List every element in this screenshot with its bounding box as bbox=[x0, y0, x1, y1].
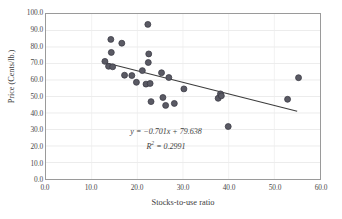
r-squared-value: = 0.2991 bbox=[156, 141, 185, 150]
r-squared-exponent: 2 bbox=[151, 140, 154, 146]
y-axis-tick-label: 10.0 bbox=[1, 160, 43, 167]
y-axis-title: Price (Cents/lb.) bbox=[7, 22, 16, 132]
x-axis-tick-label: 30.0 bbox=[163, 184, 203, 191]
y-axis-tick-label: 0.0 bbox=[1, 176, 43, 183]
x-axis-tick-label: 10.0 bbox=[71, 184, 111, 191]
x-axis-tick-label: 20.0 bbox=[117, 184, 157, 191]
r-squared-text: R2 = 0.2991 bbox=[110, 138, 222, 152]
x-axis-tick-label: 0.0 bbox=[25, 184, 65, 191]
plot-area bbox=[45, 13, 321, 180]
y-axis-tick-label: 20.0 bbox=[1, 143, 43, 150]
x-axis-tick-labels: 0.010.020.030.040.050.060.0 bbox=[45, 184, 321, 196]
x-axis-tick-label: 40.0 bbox=[209, 184, 249, 191]
x-axis-tick-label: 60.0 bbox=[301, 184, 341, 191]
scatter-chart: 0.010.020.030.040.050.060.070.080.090.01… bbox=[0, 0, 342, 219]
x-axis-title: Stocks-to-use ratio bbox=[45, 198, 321, 207]
trendline-equation-annotation: y = −0.701x + 79.638 R2 = 0.2991 bbox=[110, 127, 222, 152]
regression-equation-text: y = −0.701x + 79.638 bbox=[110, 127, 222, 138]
y-axis-tick-label: 100.0 bbox=[1, 9, 43, 16]
scatter-points bbox=[46, 14, 320, 179]
x-axis-tick-label: 50.0 bbox=[255, 184, 295, 191]
